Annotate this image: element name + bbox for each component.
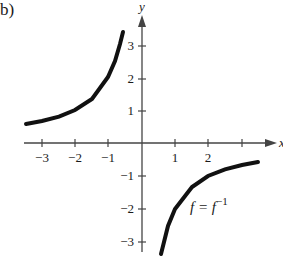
function-label-sup: −1 xyxy=(216,195,228,207)
curve-left-branch xyxy=(26,32,123,124)
y-axis-arrow-icon xyxy=(138,15,146,27)
y-tick-label: 2 xyxy=(128,71,135,86)
y-tick-label: −1 xyxy=(120,168,134,183)
x-axis-arrow-icon xyxy=(265,139,277,147)
x-axis-name: x xyxy=(278,135,283,150)
y-tick-label: −2 xyxy=(120,201,134,216)
y-tick-label: −3 xyxy=(120,234,134,249)
x-tick-label: 1 xyxy=(172,150,179,165)
function-label-main: f = f xyxy=(190,199,218,215)
x-tick-label: −3 xyxy=(35,150,49,165)
graph: −3 −2 −1 1 2 −3 −2 −1 1 2 3 x y f = f−1 xyxy=(0,0,283,258)
x-tick-label: −2 xyxy=(68,150,82,165)
x-tick-label: −1 xyxy=(101,150,115,165)
y-axis-name: y xyxy=(137,0,145,14)
x-tick-label: 2 xyxy=(205,150,212,165)
y-tick-label: 3 xyxy=(128,38,135,53)
y-tick-label: 1 xyxy=(128,103,135,118)
function-label: f = f−1 xyxy=(190,195,228,215)
